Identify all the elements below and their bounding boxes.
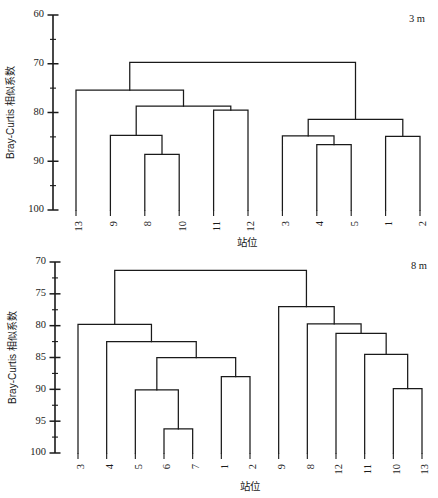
leaf-label-top-10: 10 [177,221,188,232]
leaf-label-bottom-6: 6 [161,464,172,469]
dendro-link-top-m5 [76,90,184,210]
leaf-label-bottom-4: 4 [104,463,115,469]
leaf-label-top-9: 9 [108,221,119,226]
dendro-link-top-m1 [145,154,179,210]
dendro-link-bottom-n1 [164,429,193,453]
leaf-label-bottom-2: 2 [247,464,258,469]
leaf-label-bottom-9: 9 [276,464,287,469]
y-tick-label-bottom-80: 80 [36,319,47,330]
x-axis-title-top: 站位 [237,236,258,248]
dendro-link-bottom-n8 [365,354,408,453]
dendro-link-bottom-n3 [221,377,250,453]
leaf-label-bottom-8: 8 [305,464,316,469]
leaf-label-bottom-10: 10 [391,464,402,475]
leaf-label-top-8: 8 [142,221,153,226]
dendro-link-bottom-n6 [78,324,151,453]
dendrogram-svg-bottom: 707580859095100Bray-Curtis 相似系数8 m345671… [0,250,438,498]
dendro-link-top-m2 [110,135,162,210]
y-axis-title-top: Bray-Curtis 相似系数 [4,66,16,159]
leaf-label-bottom-5: 5 [133,464,144,469]
leaf-label-top-12: 12 [245,221,256,232]
dendro-link-top-m7 [282,136,334,210]
dendro-link-top-m3 [214,110,248,210]
dendrogram-panel-8m: 707580859095100Bray-Curtis 相似系数8 m345671… [0,250,438,498]
dendro-link-bottom-n11 [279,307,335,453]
y-tick-label-top-100: 100 [28,203,44,214]
y-tick-label-top-90: 90 [34,155,45,166]
y-tick-label-bottom-100: 100 [30,446,46,457]
dendro-link-bottom-n7 [393,389,422,453]
y-tick-label-bottom-75: 75 [36,287,47,298]
depth-label-bottom: 8 m [411,260,427,271]
leaf-label-bottom-11: 11 [362,464,373,474]
x-axis-title-bottom: 站位 [240,480,261,492]
y-tick-label-top-70: 70 [34,57,45,68]
y-axis-title-bottom: Bray-Curtis 相似系数 [6,311,18,404]
dendro-link-bottom-n4 [157,358,236,390]
leaf-label-top-13: 13 [73,221,84,232]
dendro-link-bottom-n5 [107,342,197,453]
y-tick-label-bottom-90: 90 [36,383,47,394]
dendro-link-bottom-n10 [307,324,361,453]
leaf-label-top-1: 1 [383,221,394,226]
leaf-label-bottom-7: 7 [190,464,201,469]
dendro-link-bottom-n2 [135,390,178,453]
dendrogram-panel-3m: 60708090100Bray-Curtis 相似系数3 m1398101112… [0,0,438,250]
dendrogram-svg-top: 60708090100Bray-Curtis 相似系数3 m1398101112… [0,0,438,250]
figure-root: 60708090100Bray-Curtis 相似系数3 m1398101112… [0,0,438,498]
dendro-link-top-m9 [308,119,403,136]
leaf-label-top-4: 4 [314,220,325,226]
leaf-label-bottom-12: 12 [333,464,344,475]
leaf-label-top-2: 2 [417,221,428,226]
dendro-link-bottom-n9 [336,333,386,453]
dendro-link-top-m10 [130,62,356,119]
depth-label-top: 3 m [409,13,425,24]
leaf-label-bottom-13: 13 [419,464,430,475]
y-tick-label-top-60: 60 [34,8,45,19]
dendro-link-top-m8 [386,136,420,210]
leaf-label-bottom-1: 1 [219,464,230,469]
dendro-link-top-m6 [317,145,351,210]
leaf-label-top-11: 11 [211,221,222,231]
dendro-link-bottom-n12 [115,270,307,324]
y-tick-label-bottom-95: 95 [36,415,47,426]
leaf-label-top-3: 3 [280,221,291,226]
y-tick-label-top-80: 80 [34,106,45,117]
y-tick-label-bottom-85: 85 [36,351,47,362]
leaf-label-bottom-3: 3 [75,464,86,469]
y-tick-label-bottom-70: 70 [36,255,47,266]
leaf-label-top-5: 5 [349,221,360,226]
